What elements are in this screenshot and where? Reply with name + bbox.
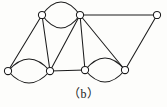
graph-edge — [42, 2, 80, 15]
graph-edge — [42, 15, 50, 71]
graph-vertex — [81, 66, 88, 73]
figure-container: （b） — [0, 0, 167, 107]
graph-edge — [50, 15, 80, 71]
graph-edge — [85, 58, 125, 70]
graph-edge — [80, 15, 85, 70]
graph-vertex — [4, 67, 11, 74]
graph-vertex — [76, 11, 83, 18]
figure-caption: （b） — [0, 84, 167, 102]
graph-edge — [50, 70, 85, 71]
graph-vertex — [38, 11, 45, 18]
graph-vertex — [121, 66, 128, 73]
graph-edge — [85, 70, 125, 82]
graph-edge — [125, 15, 157, 70]
graph-vertex — [153, 11, 160, 18]
graph-edge — [8, 71, 50, 83]
graph-edge — [80, 15, 125, 70]
graph-edge — [8, 15, 42, 71]
graph-vertex — [46, 67, 53, 74]
